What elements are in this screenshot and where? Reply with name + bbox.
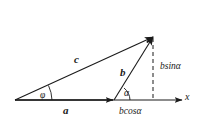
angle-phi-label: φ bbox=[40, 91, 45, 101]
vertical-component-label: bsinα bbox=[160, 62, 181, 72]
angle-alpha-label: α bbox=[124, 89, 129, 99]
vector-b-label: b bbox=[120, 67, 126, 78]
vector-c-label: c bbox=[74, 54, 79, 65]
vector-diagram-figure: c b a φ α bsinα bcosα x bbox=[0, 0, 198, 134]
vector-c-arrow bbox=[15, 37, 153, 100]
horizontal-component-label: bcosα bbox=[119, 107, 141, 117]
angle-phi-arc bbox=[49, 86, 53, 101]
vector-a-label: a bbox=[63, 105, 69, 116]
x-axis-label: x bbox=[185, 92, 189, 102]
